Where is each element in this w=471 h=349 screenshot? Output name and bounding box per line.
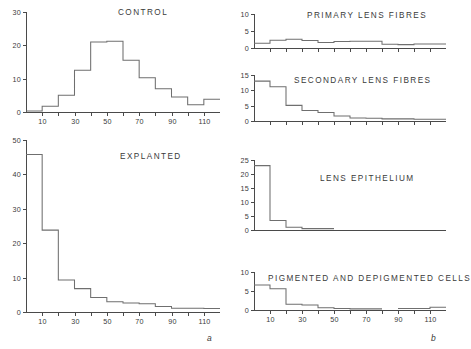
x-tick-label: 110 [424,315,436,324]
y-tick-label: 50 [13,136,21,145]
x-tick-label: 10 [266,315,274,324]
x-tick-label: 30 [298,315,306,324]
y-tick-label: 5 [245,27,249,36]
x-tick-label: 10 [38,317,46,326]
y-tick-label: 10 [13,75,21,84]
x-tick-label: 70 [135,317,143,326]
x-tick-label: 50 [103,117,111,126]
y-tick-label: 5 [245,102,249,111]
y-tick-label: 20 [13,239,21,248]
y-tick-label: 0 [17,108,21,117]
panel-letter-a: a [207,333,212,343]
x-tick-label: 70 [362,315,370,324]
y-tick-label: 10 [241,10,249,19]
step-series-secondary-lens-fibres [254,81,446,119]
y-tick-label: 5 [245,287,249,296]
chart-title-pigmented-and-depigmented-cells: PIGMENTED AND DEPIGMENTED CELLS [268,274,471,283]
y-tick-label: 10 [13,274,21,283]
x-tick-label: 10 [38,117,46,126]
x-tick-label: 70 [135,117,143,126]
step-series-primary-lens-fibres [254,39,446,44]
chart-title-lens-epithelium: LENS EPITHELIUM [320,174,415,183]
y-tick-label: 0 [245,226,249,235]
x-tick-label: 30 [71,117,79,126]
plot-lens-epithelium: 0510152025 [241,156,446,235]
panel-b: PRIMARY LENS FIBRES SECONDARY LENS FIBRE… [232,0,454,349]
chart-title-primary-lens-fibres: PRIMARY LENS FIBRES [307,11,427,20]
panel-a-canvas: 0102030103050709011001020304050103050709… [0,0,232,349]
x-tick-label: 90 [168,317,176,326]
y-tick-label: 10 [241,86,249,95]
y-tick-label: 10 [241,198,249,207]
step-series-control [26,41,220,111]
chart-title-explanted: EXPLANTED [120,152,182,161]
plot-explanted: 010203040501030507090110 [13,136,220,325]
y-tick-label: 30 [13,8,21,17]
y-tick-label: 20 [241,170,249,179]
x-tick-label: 50 [330,315,338,324]
panel-a: CONTROL EXPLANTED a 01020301030507090110… [0,0,232,349]
y-tick-label: 0 [245,44,249,53]
y-tick-label: 0 [17,308,21,317]
y-tick-label: 5 [245,212,249,221]
y-tick-label: 0 [245,306,249,315]
y-tick-label: 10 [241,268,249,277]
step-series-explanted [26,154,220,308]
x-tick-label: 90 [394,315,402,324]
y-tick-label: 0 [245,117,249,126]
y-tick-label: 40 [13,170,21,179]
step-series-pigmented-and-depigmented-cells [254,285,446,309]
plot-control: 01020301030507090110 [13,8,220,125]
y-tick-label: 20 [13,41,21,50]
y-tick-label: 15 [241,184,249,193]
y-tick-label: 25 [241,156,249,165]
x-tick-label: 30 [71,317,79,326]
y-tick-label: 30 [13,205,21,214]
x-tick-label: 50 [103,317,111,326]
y-tick-label: 15 [241,71,249,80]
chart-title-secondary-lens-fibres: SECONDARY LENS FIBRES [294,76,432,85]
x-tick-label: 90 [168,117,176,126]
x-tick-label: 110 [198,317,210,326]
panel-letter-b: b [431,333,436,343]
x-tick-label: 110 [198,117,210,126]
chart-title-control: CONTROL [118,8,168,17]
